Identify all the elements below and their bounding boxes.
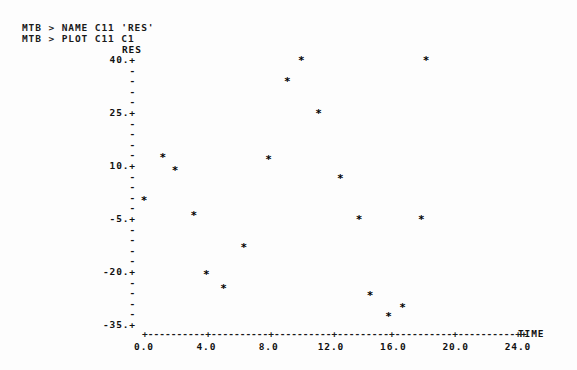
y-axis-tick-label: 10.+ [110,160,136,171]
y-axis-tick-major: -20.+ [88,266,136,277]
y-axis-tick-minor: - [88,75,136,86]
data-point-marker: * [385,311,392,322]
y-axis-tick-minor: - [88,287,136,298]
y-axis-tick-minor: - [88,171,136,182]
y-axis-tick-minor: - [88,308,136,319]
y-axis-tick-minor: - [88,255,136,266]
data-point-marker: * [265,153,272,164]
y-axis-tick-minor: - [88,139,136,150]
x-axis-tick-label: 4.0 [186,341,226,352]
y-axis-tick-major: -5.+ [88,213,136,224]
scatter-plot-canvas: 40.+----25.+----10.+-----5.+-----20.+---… [0,0,577,370]
y-axis-tick-minor: - [88,245,136,256]
y-axis-tick-minor: - [88,96,136,107]
data-point-marker: * [240,242,247,253]
x-axis-tick-label: 0.0 [124,341,164,352]
y-axis-tick-label: 40.+ [110,54,136,65]
y-axis-tick-label: -5.+ [110,213,136,224]
data-point-marker: * [172,164,179,175]
data-point-marker: * [203,268,210,279]
y-axis-tick-minor: - [88,224,136,235]
y-axis-tick-minor: - [88,192,136,203]
data-point-marker: * [356,214,363,225]
y-axis-tick-major: 25.+ [88,107,136,118]
data-point-marker: * [315,108,322,119]
x-axis-tick-label: 20.0 [436,341,476,352]
y-axis-tick-minor: - [88,298,136,309]
y-axis-tick-major: -35.+ [88,319,136,330]
data-point-marker: * [418,214,425,225]
y-axis-tick-major: 40.+ [88,54,136,65]
data-point-marker: * [399,302,406,313]
data-point-marker: * [298,55,305,66]
data-point-marker: * [141,194,148,205]
y-axis-tick-minor: - [88,86,136,97]
x-axis-tick-label: 8.0 [249,341,289,352]
y-axis-tick-minor: - [88,149,136,160]
data-point-marker: * [159,152,166,163]
y-axis-tick-minor: - [88,65,136,76]
y-axis-tick-minor: - [88,128,136,139]
y-axis-tick-minor: - [88,202,136,213]
data-point-marker: * [367,289,374,300]
y-axis-tick-minor: - [88,277,136,288]
data-point-marker: * [423,55,430,66]
y-axis-tick-label: -20.+ [103,266,136,277]
minitab-plot-screen: MTB > NAME C11 'RES' MTB > PLOT C11 C1 R… [0,0,577,370]
y-axis-tick-label: -35.+ [103,319,136,330]
y-axis-tick-minor: - [88,234,136,245]
data-point-marker: * [284,76,291,87]
x-axis-tick-label: 12.0 [311,341,351,352]
x-axis-line: +----------+----------+----------+------… [142,328,527,339]
data-point-marker: * [220,282,227,293]
y-axis-tick-major: 10.+ [88,160,136,171]
data-point-marker: * [191,210,198,221]
y-axis-tick-label: 25.+ [110,107,136,118]
data-point-marker: * [337,173,344,184]
x-axis-tick-label: 24.0 [498,341,538,352]
x-axis-tick-label: 16.0 [373,341,413,352]
y-axis-tick-minor: - [88,118,136,129]
y-axis-tick-minor: - [88,181,136,192]
